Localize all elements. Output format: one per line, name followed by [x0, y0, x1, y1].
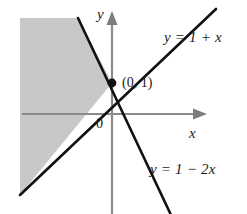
intersection-point-label: (0, 1) [122, 76, 152, 90]
math-graph-figure: y = 1 + x y = 1 − 2x y x (0, 1) 0 [0, 0, 247, 214]
line-descending-label: y = 1 − 2x [150, 162, 216, 177]
y-axis-label: y [97, 7, 104, 22]
line-ascending-label: y = 1 + x [164, 30, 222, 45]
x-axis-arrowhead [193, 109, 207, 120]
y-axis-arrowhead [107, 11, 118, 25]
origin-label: 0 [96, 117, 103, 131]
line-descending [78, 18, 171, 214]
intersection-point-dot [108, 79, 117, 88]
x-axis-label: x [189, 126, 196, 141]
shaded-region [20, 18, 112, 195]
